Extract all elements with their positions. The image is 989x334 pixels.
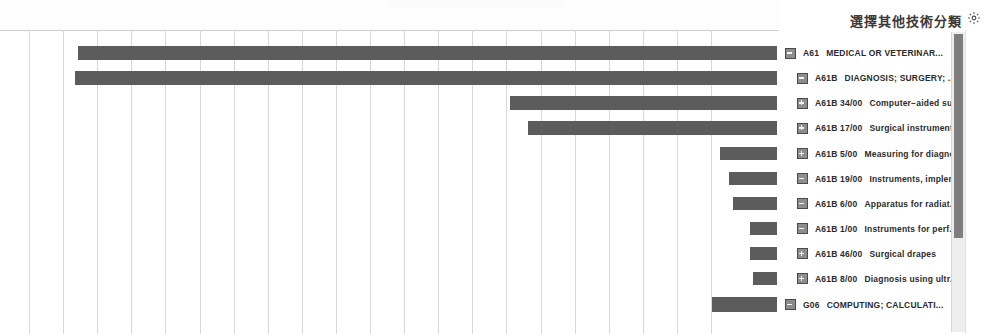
technology-classification-panel: 選擇其他技術分類 A61MEDICAL OR VETERINAR...A61BD… xyxy=(779,0,989,334)
chart-bars xyxy=(0,30,782,334)
legend-item-label: Apparatus for radiat... xyxy=(864,199,951,209)
legend-item-code: A61B 34/00 xyxy=(815,98,862,108)
expand-plus-icon[interactable] xyxy=(797,273,808,284)
legend-item-code: A61B 19/00 xyxy=(815,174,862,184)
bar-row[interactable] xyxy=(0,272,782,285)
legend-item-code: A61B 8/00 xyxy=(815,274,857,284)
collapse-minus-icon[interactable] xyxy=(797,198,808,209)
legend-item[interactable]: G06COMPUTING; CALCULATI... xyxy=(779,293,944,317)
legend-scrollbar[interactable] xyxy=(951,32,966,332)
expand-plus-icon[interactable] xyxy=(797,123,808,134)
legend-item[interactable]: A61B 34/00Computer−aided surge... xyxy=(779,91,951,115)
legend-item[interactable]: A61BDIAGNOSIS; SURGERY; ... xyxy=(779,66,951,90)
bar[interactable] xyxy=(750,222,777,235)
bar-row[interactable] xyxy=(0,121,782,135)
bar[interactable] xyxy=(528,121,777,135)
collapse-minus-icon[interactable] xyxy=(797,173,808,184)
legend-item-code: G06 xyxy=(803,300,820,310)
bar-row[interactable] xyxy=(0,222,782,235)
gear-icon[interactable] xyxy=(967,11,981,25)
bar-row[interactable] xyxy=(0,172,782,185)
collapse-minus-icon[interactable] xyxy=(797,223,808,234)
bar-chart-plot-area xyxy=(0,30,782,334)
classification-tree-list[interactable]: A61MEDICAL OR VETERINAR...A61BDIAGNOSIS;… xyxy=(779,32,951,332)
legend-item-label: Surgical instruments... xyxy=(869,123,951,133)
legend-item[interactable]: A61B 17/00Surgical instruments... xyxy=(779,116,951,140)
bar[interactable] xyxy=(733,197,777,210)
legend-item[interactable]: A61B 6/00Apparatus for radiat... xyxy=(779,192,951,216)
legend-item[interactable]: A61B 46/00Surgical drapes xyxy=(779,242,936,266)
bar-row[interactable] xyxy=(0,297,782,312)
legend-item-label: Measuring for diagno... xyxy=(864,149,951,159)
legend-item-code: A61B 17/00 xyxy=(815,123,862,133)
expand-plus-icon[interactable] xyxy=(797,98,808,109)
legend-item[interactable]: A61MEDICAL OR VETERINAR... xyxy=(779,41,943,65)
legend-item[interactable]: A61B 5/00Measuring for diagno... xyxy=(779,142,951,166)
legend-item-code: A61B 6/00 xyxy=(815,199,857,209)
bar[interactable] xyxy=(753,272,777,285)
legend-item-code: A61B 46/00 xyxy=(815,249,862,259)
legend-item-code: A61 xyxy=(803,48,819,58)
legend-item-code: A61B 1/00 xyxy=(815,224,857,234)
legend-item[interactable]: A61B 1/00Instruments for perf... xyxy=(779,217,951,241)
bar[interactable] xyxy=(720,147,777,160)
bar-row[interactable] xyxy=(0,147,782,160)
screenshot-root: 選擇其他技術分類 A61MEDICAL OR VETERINAR...A61BD… xyxy=(0,0,989,334)
legend-item-label: Instruments for perf... xyxy=(864,224,951,234)
legend-item-code: A61B xyxy=(815,73,838,83)
legend-item-label: Instruments, impleme... xyxy=(869,174,951,184)
bar-row[interactable] xyxy=(0,46,782,60)
legend-item-label: Diagnosis using ultr... xyxy=(864,274,951,284)
collapse-minus-icon[interactable] xyxy=(785,48,796,59)
bar-row[interactable] xyxy=(0,197,782,210)
legend-item-label: MEDICAL OR VETERINAR... xyxy=(826,48,943,58)
bar-row[interactable] xyxy=(0,71,782,85)
collapse-minus-icon[interactable] xyxy=(785,299,796,310)
legend-item-label: Computer−aided surge... xyxy=(869,98,951,108)
bar[interactable] xyxy=(712,297,777,312)
expand-plus-icon[interactable] xyxy=(797,248,808,259)
legend-item-label: COMPUTING; CALCULATI... xyxy=(827,300,944,310)
legend-scrollbar-thumb[interactable] xyxy=(954,34,963,238)
bar-row[interactable] xyxy=(0,96,782,110)
bar[interactable] xyxy=(729,172,777,185)
expand-plus-icon[interactable] xyxy=(797,148,808,159)
panel-title: 選擇其他技術分類 xyxy=(850,11,962,30)
collapse-minus-icon[interactable] xyxy=(797,73,808,84)
legend-item-code: A61B 5/00 xyxy=(815,149,857,159)
legend-item-label: Surgical drapes xyxy=(869,249,936,259)
legend-item-label: DIAGNOSIS; SURGERY; ... xyxy=(845,73,951,83)
bar[interactable] xyxy=(750,247,777,260)
legend-item[interactable]: A61B 8/00Diagnosis using ultr... xyxy=(779,267,951,291)
bar[interactable] xyxy=(75,71,777,85)
bar[interactable] xyxy=(510,96,777,110)
scan-artifact-strip xyxy=(388,0,564,7)
bar-row[interactable] xyxy=(0,247,782,260)
legend-item[interactable]: A61B 19/00Instruments, impleme... xyxy=(779,167,951,191)
panel-right-edge xyxy=(965,30,966,334)
bar[interactable] xyxy=(78,46,777,60)
